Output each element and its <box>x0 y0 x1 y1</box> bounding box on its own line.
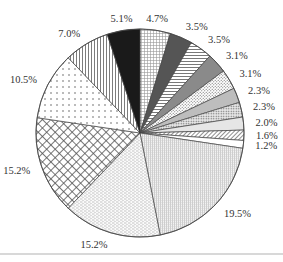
slice-label: 3.1% <box>226 50 248 61</box>
slice-label: 3.1% <box>239 68 261 79</box>
pie-slices <box>36 29 244 237</box>
slice-label: 10.5% <box>10 74 37 85</box>
bottom-divider <box>0 253 283 255</box>
pie-chart: 4.7%3.5%3.5%3.1%3.1%2.3%2.3%2.0%1.6%1.2%… <box>0 0 283 262</box>
slice-label: 2.0% <box>256 117 278 128</box>
slice-label: 15.2% <box>3 165 30 176</box>
slice-label: 2.3% <box>248 85 270 96</box>
slice-label: 1.2% <box>255 140 277 151</box>
slice-label: 7.0% <box>58 28 80 39</box>
slice-label: 4.7% <box>146 13 168 24</box>
slice-label: 2.3% <box>253 101 275 112</box>
slice-label: 3.5% <box>208 34 230 45</box>
slice-label: 5.1% <box>111 13 133 24</box>
slice-label: 19.5% <box>224 208 251 219</box>
slice-label: 15.2% <box>80 239 107 250</box>
slice-label: 3.5% <box>186 21 208 32</box>
